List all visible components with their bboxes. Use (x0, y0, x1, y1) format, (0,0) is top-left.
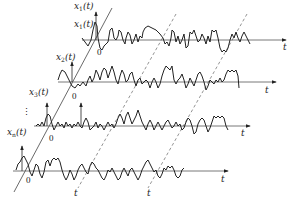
row3-origin: 0 (49, 134, 54, 143)
row1-label-outer: x1(t) (74, 2, 94, 12)
row1-label-inner: x1(t) (74, 20, 94, 30)
row3-axis-label: t (241, 129, 245, 138)
row2-sample-function (58, 66, 239, 90)
rowN-origin: 0 (26, 176, 31, 185)
time-marker-label-2: t (147, 189, 151, 198)
row-ellipsis: ⋮ (22, 108, 31, 117)
row1-sample-function (82, 22, 250, 52)
row2-origin: 0 (72, 92, 77, 101)
rowN-axis-label: t (221, 175, 225, 184)
row3-sample-function (36, 110, 228, 134)
row2-label: x2(t) (56, 53, 76, 63)
time-marker-label-1: t (74, 189, 78, 198)
row4-sample-function (16, 156, 184, 180)
row1-origin: 0 (97, 48, 102, 57)
rowN-label: xn(t) (7, 128, 27, 138)
random-process-diagram: x1(t) x1(t) x2(t) x3(t) ⋮ xn(t) 0 0 0 0 … (0, 0, 291, 201)
row1-axis-label: t (283, 43, 287, 52)
diagram-canvas (0, 0, 291, 201)
row2-axis-label: t (265, 86, 269, 95)
row3-label: x3(t) (29, 88, 49, 98)
